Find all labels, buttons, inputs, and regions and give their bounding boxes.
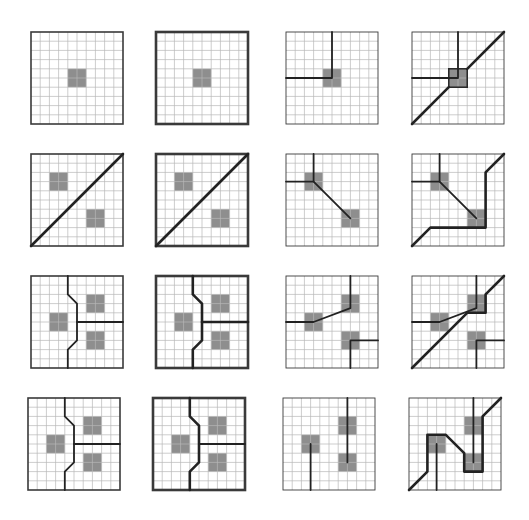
panel-p13 (28, 398, 120, 490)
panel-p1 (31, 32, 123, 124)
panel-p6 (156, 154, 248, 246)
panel-p15 (283, 398, 375, 490)
grid-panels-figure: Grid segmentation panels (0, 0, 529, 520)
panel-p3 (286, 32, 378, 124)
panel-p16 (409, 398, 501, 490)
panel-p9 (31, 276, 123, 368)
panel-p7 (286, 154, 378, 246)
panel-p14 (153, 398, 245, 490)
panel-p5 (31, 154, 123, 246)
panel-p12 (412, 276, 504, 368)
panel-p10 (156, 276, 248, 368)
panel-p8 (412, 154, 504, 246)
panel-p2 (156, 32, 248, 124)
panel-p11 (286, 276, 378, 368)
panel-p4 (412, 32, 504, 124)
